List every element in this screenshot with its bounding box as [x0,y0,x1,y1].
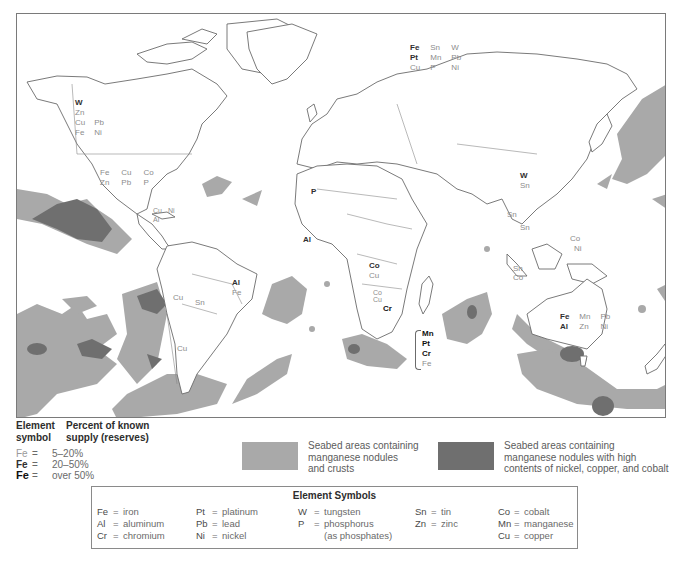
element-label: Cu [75,118,85,128]
continent-outlines [27,19,666,394]
swatch-light-gray [242,442,298,470]
element-name: aluminum [123,518,165,530]
element-label: Co [513,273,523,282]
symbol-entry-al: Al=aluminum [97,518,165,530]
element-label: Co [369,261,380,271]
range: 5–20% [52,448,132,459]
element-label: Fe [410,43,420,53]
label-south-africa-bracket [415,330,421,370]
symbol: Cr [97,530,113,542]
symbol-entry-w: W=tungsten [298,506,392,518]
supply-row-low: Fe = 5–20% [16,448,176,459]
header-element-line1: Element [16,420,66,432]
symbol-entry-cu: Cu=copper [498,530,574,542]
element-label: Cu [153,206,162,215]
label-united-states: Fe Cu Co Zn Pb P [100,168,154,188]
seabed-legend-nodules: Seabed areas containing manganese nodule… [242,440,419,475]
element-name: zinc [441,518,458,530]
equals: = [431,518,441,530]
supply-legend-header: Element Percent of known symbol supply (… [16,420,176,444]
element-label: Sn [513,264,523,273]
seabed-nickel-line1: Seabed areas containing [504,440,669,452]
element-name: tin [441,506,458,518]
element-label: Al [153,215,162,224]
element-label: Pb [600,312,610,322]
element-name: chromium [123,530,165,542]
symbol-entry-zn: Zn=zinc [415,518,458,530]
element-label: Cr [422,349,434,359]
label-peru: Cu [173,293,183,303]
element-name: nickel [222,530,258,542]
equals: = [32,470,52,481]
symbol: Pt [196,506,212,518]
element-name: iron [123,506,165,518]
symbol: P [298,518,314,530]
equals: = [514,518,524,530]
symbol: W [298,506,314,518]
equals: = [314,518,324,530]
element-label: Mn [430,53,441,63]
label-zambia: Co Cu [373,289,382,304]
symbols-column-4: Sn=tin Zn=zinc [415,506,458,530]
label-south-africa: Mn Pt Cr Fe [422,329,434,369]
element-label: Cu [373,296,382,304]
equals: = [212,518,222,530]
seabed-nickel-line3: contents of nickel, copper, and cobalt [504,463,669,475]
label-bolivia: Sn [195,298,205,308]
element-label: Ni [168,206,175,215]
element-label: Pb [451,53,461,63]
label-thailand: Sn [520,223,530,233]
symbol: Cu [498,530,514,542]
label-indonesia: Sn Co [513,264,523,282]
header-element-line2: symbol [16,432,66,444]
element-symbols-legend: Element Symbols Fe=iron Al=aluminum Cr=c… [91,486,578,549]
equals: = [212,506,222,518]
seabed-nickel-line2: manganese nodules with high [504,452,669,464]
swatch-dark-gray [438,442,494,470]
seabed-nodules-line1: Seabed areas containing [308,440,419,452]
label-zimbabwe: Cr [383,304,392,314]
symbol-entry-fe: Fe=iron [97,506,165,518]
element-label: Mn [579,312,590,322]
symbol-entry-p: P=phosphorus(as phosphates) [298,518,392,542]
element-label: W [75,98,104,108]
element-name: manganese [524,518,574,530]
element-label: Co [570,234,582,244]
symbol: Pb [196,518,212,530]
element-label: Zn [75,108,104,118]
element-label: Cu [410,63,420,73]
equals: = [514,506,524,518]
seabed-legend-high-nickel: Seabed areas containing manganese nodule… [438,440,669,475]
element-name: lead [222,518,258,530]
element-label: P [144,178,154,188]
world-map: W Zn Cu Pb Fe Ni Fe Cu Co Zn Pb P Cu Ni … [16,13,666,418]
symbols-column-2: Pt=platinum Pb=lead Ni=nickel [196,506,258,542]
element-label: Ni [600,322,610,332]
label-burma: Sn [507,210,517,220]
element-label: Co [144,168,154,178]
equals: = [32,459,52,470]
symbol-sample: Fe [16,470,32,481]
symbol: Sn [415,506,431,518]
equals: = [113,518,123,530]
element-label: Fe [560,312,569,322]
symbols-column-5: Co=cobalt Mn=manganese Cu=copper [498,506,574,542]
symbol-entry-mn: Mn=manganese [498,518,574,530]
symbol: Fe [97,506,113,518]
symbol-entry-cr: Cr=chromium [97,530,165,542]
element-label: Pt [422,339,434,349]
element-name: cobalt [524,506,574,518]
element-label: Cu [121,168,131,178]
symbol-entry-pb: Pb=lead [196,518,258,530]
element-note: (as phosphates) [324,530,392,542]
element-label: Al [560,322,569,332]
symbol-entry-pt: Pt=platinum [196,506,258,518]
symbol: Ni [196,530,212,542]
element-label: Pt [410,53,420,63]
element-label: Fe [100,168,109,178]
element-label: Sn [520,181,530,191]
symbol-sample: Fe [16,448,32,459]
symbols-column-1: Fe=iron Al=aluminum Cr=chromium [97,506,165,542]
symbol-entry-co: Co=cobalt [498,506,574,518]
supply-row-mid: Fe = 20–50% [16,459,176,470]
